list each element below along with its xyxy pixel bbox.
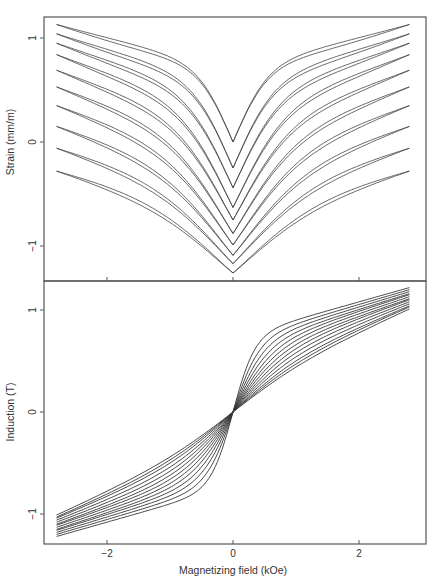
x-axis-label: Magnetizing field (kOe): [179, 564, 287, 576]
strain-curve: [57, 87, 410, 234]
strain-curve: [57, 34, 410, 168]
induction-plot: 10−1−202: [27, 281, 426, 559]
y-tick-label: 0: [27, 139, 38, 145]
strain-curves: [57, 25, 410, 274]
strain-curve: [57, 106, 410, 245]
strain-curve: [57, 171, 410, 273]
strain-curve: [57, 70, 410, 220]
x-tick-label: −2: [101, 548, 113, 559]
strain-curve: [57, 25, 410, 143]
y-tick-label: 1: [27, 307, 38, 313]
strain-y-axis-label: Strain (mm/m): [4, 109, 16, 176]
strain-axes: 10−1: [27, 17, 426, 281]
induction-y-axis-label: Induction (T): [4, 383, 16, 442]
strain-curve: [57, 70, 410, 220]
strain-curve: [57, 43, 410, 188]
strain-curve: [57, 148, 410, 264]
x-tick-label: 2: [356, 548, 362, 559]
strain-curve: [57, 25, 410, 143]
induction-curves: [57, 288, 410, 537]
induction-curve: [57, 309, 410, 515]
x-tick-label: 0: [230, 548, 236, 559]
strain-plot: 10−1: [27, 17, 426, 281]
strain-curve: [57, 87, 410, 234]
strain-curve: [57, 148, 410, 264]
y-tick-label: −1: [27, 240, 38, 252]
strain-curve: [57, 106, 410, 245]
strain-curve: [57, 55, 410, 208]
chart: 10−1 10−1−202 Strain (mm/m) Induction (T…: [0, 0, 441, 582]
strain-curve: [57, 43, 410, 188]
y-tick-label: 1: [27, 35, 38, 41]
strain-curve: [57, 171, 410, 273]
y-tick-label: −1: [27, 508, 38, 520]
strain-curve: [57, 34, 410, 168]
y-tick-label: 0: [27, 409, 38, 415]
